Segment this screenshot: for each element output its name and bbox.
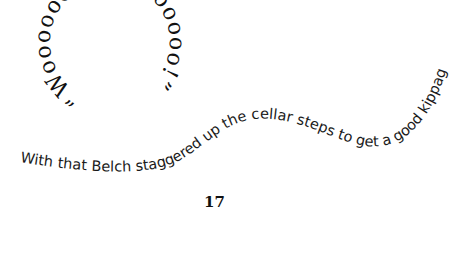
curved-text-canvas: “Wooooooo Hoooooooo!” With that Belch st… (0, 0, 459, 268)
page-number: 17 (204, 193, 225, 211)
exclamation-circle-text: “Wooooooo Hoooooooo!” (30, 0, 191, 112)
exclamation-text: “Wooooooo Hoooooooo!” (30, 0, 191, 112)
book-page: “Wooooooo Hoooooooo!” With that Belch st… (0, 0, 459, 268)
